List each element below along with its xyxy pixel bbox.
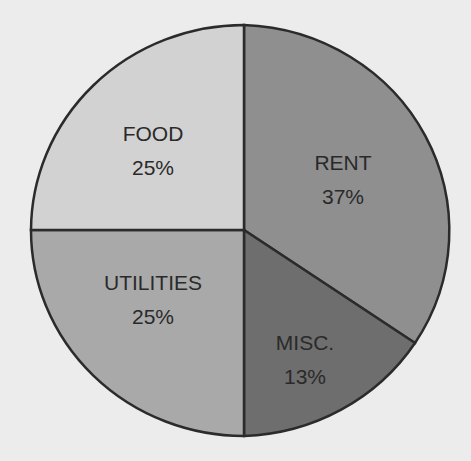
label-food: FOOD <box>123 122 184 145</box>
pct-rent: 37% <box>322 185 364 208</box>
label-rent: RENT <box>314 151 371 174</box>
pct-misc: 13% <box>284 365 326 388</box>
slice-utilities <box>31 230 244 436</box>
pct-food: 25% <box>132 156 174 179</box>
label-misc: MISC. <box>276 331 334 354</box>
pct-utilities: 25% <box>132 305 174 328</box>
pie-chart: FOOD 25% RENT 37% UTILITIES 25% MISC. 13… <box>0 0 471 461</box>
label-utilities: UTILITIES <box>104 271 202 294</box>
